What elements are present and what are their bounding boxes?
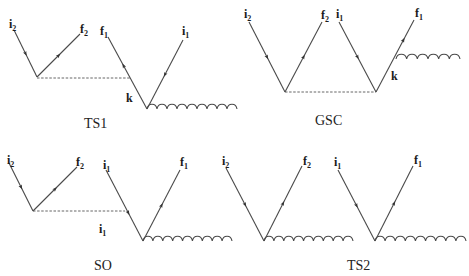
particle-label: i1 <box>182 24 189 40</box>
particle-label: i2 <box>9 17 16 33</box>
arrow-icon <box>162 72 167 78</box>
particle-label: f1 <box>180 155 188 171</box>
arrow-icon <box>264 54 269 60</box>
fermion-line <box>106 170 143 241</box>
arrow-icon <box>301 54 306 60</box>
photon-wavy-line <box>375 236 466 241</box>
particle-label: i2 <box>244 7 251 23</box>
diagram-title: TS2 <box>347 258 370 273</box>
arrow-icon <box>355 54 360 60</box>
diagram-title: SO <box>94 258 112 273</box>
particle-label: f2 <box>321 8 329 24</box>
particle-label: i1 <box>336 7 343 23</box>
arrow-icon <box>242 202 247 208</box>
arrow-icon <box>391 200 396 206</box>
diagram-title: TS1 <box>84 116 107 131</box>
particle-label: i1 <box>103 158 110 174</box>
particle-label: f2 <box>303 154 311 170</box>
particle-label: k <box>126 91 133 105</box>
particle-label: f2 <box>80 22 88 38</box>
particle-label: k <box>391 69 398 83</box>
arrow-icon <box>280 200 285 206</box>
particle-label: i1 <box>334 155 341 171</box>
particle-label: f2 <box>76 155 84 171</box>
arrow-icon <box>126 210 131 216</box>
arrow-icon <box>23 51 28 57</box>
diagram-ts1: i2f2f1i1kTS1 <box>9 17 237 131</box>
arrow-icon <box>401 37 406 43</box>
arrow-icon <box>354 203 359 209</box>
photon-wavy-line <box>143 236 232 241</box>
diagram-gsc: i2f2i1f1kGSC <box>244 6 460 128</box>
diagram-canvas: i2f2f1i1kTS1i2f2i1f1kGSCi2f2i1f1i1SOi2f2… <box>0 0 469 276</box>
photon-wavy-line <box>147 104 237 109</box>
particle-label: i2 <box>222 154 229 170</box>
particle-label: i1 <box>99 222 106 238</box>
diagram-ts2: i2f2i1f1TS2 <box>222 153 466 273</box>
arrow-icon <box>18 184 23 190</box>
photon-wavy-line <box>264 236 353 241</box>
arrow-icon <box>121 63 126 69</box>
particle-label: f1 <box>414 153 422 169</box>
arrow-icon <box>159 202 164 208</box>
particle-label: f1 <box>100 24 108 40</box>
diagram-so: i2f2i1f1i1SO <box>7 153 232 273</box>
diagram-title: GSC <box>315 113 342 128</box>
particle-label: i2 <box>7 153 14 169</box>
particle-label: f1 <box>415 6 423 22</box>
photon-wavy-line <box>396 54 460 59</box>
feynman-diagrams-figure: i2f2f1i1kTS1i2f2i1f1kGSCi2f2i1f1i1SOi2f2… <box>0 0 469 276</box>
